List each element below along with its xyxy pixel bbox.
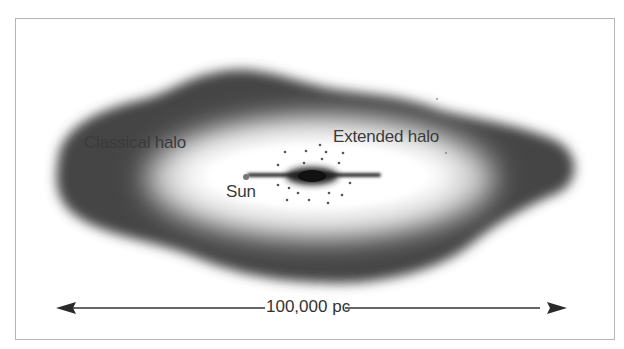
extended-halo-label: Extended halo [333, 127, 439, 147]
arrow-right-icon [547, 302, 567, 314]
sun-marker [243, 174, 249, 180]
sun-label: Sun [226, 182, 256, 202]
scale-bar-label: 100,000 pc [266, 297, 350, 317]
classical-halo-label: Classical halo [84, 133, 186, 153]
arrow-left-icon [56, 302, 76, 314]
